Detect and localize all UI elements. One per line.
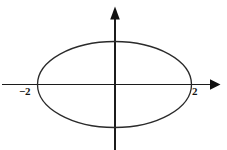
y-axis-arrow-icon	[110, 7, 120, 20]
x-axis-arrow-icon	[210, 79, 221, 90]
ellipse-graph-figure: −2 2	[0, 0, 227, 150]
x-axis-label-negative-two: −2	[19, 86, 30, 97]
x-axis-label-positive-two: 2	[192, 86, 197, 97]
graph-canvas	[0, 0, 227, 150]
